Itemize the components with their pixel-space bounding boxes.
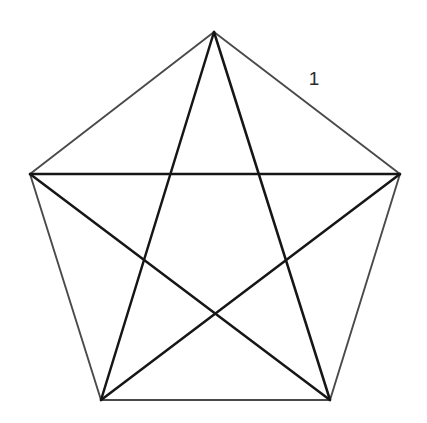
diagonal-right-to-bottom-left	[101, 174, 400, 400]
figure-labels: 1	[309, 68, 320, 89]
diagonal-bottom-right-to-left	[30, 174, 330, 400]
figure-canvas: 1	[0, 0, 427, 423]
pentagon-diagonals-figure: 1	[0, 0, 427, 423]
edge-right	[330, 174, 400, 400]
diagonal-top-to-bottom-left	[101, 32, 214, 400]
side-length-label: 1	[309, 68, 320, 89]
edge-top-left	[30, 32, 214, 174]
edge-top-right	[214, 32, 400, 174]
pentagram-diagonals	[30, 32, 400, 400]
edge-left	[30, 174, 101, 400]
